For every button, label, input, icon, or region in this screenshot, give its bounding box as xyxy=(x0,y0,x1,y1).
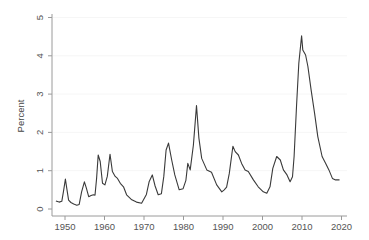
y-axis-title: Percent xyxy=(15,99,26,132)
x-tick-label: 1960 xyxy=(94,221,115,232)
y-tick-label: 5 xyxy=(34,15,45,20)
y-tick-label: 0 xyxy=(34,206,45,211)
x-tick-label: 1950 xyxy=(54,221,75,232)
y-tick-label: 2 xyxy=(34,130,45,135)
y-tick-label: 3 xyxy=(34,91,45,96)
x-tick-label: 1990 xyxy=(212,221,233,232)
line-chart: 012345 19501960197019801990200020102020 … xyxy=(0,0,369,240)
x-tick-label: 2010 xyxy=(291,221,312,232)
chart-background xyxy=(0,0,369,240)
y-tick-label: 1 xyxy=(34,168,45,173)
x-tick-label: 2020 xyxy=(331,221,352,232)
x-tick-label: 2000 xyxy=(252,221,273,232)
x-tick-label: 1980 xyxy=(173,221,194,232)
x-tick-label: 1970 xyxy=(133,221,154,232)
y-tick-label: 4 xyxy=(34,53,45,58)
